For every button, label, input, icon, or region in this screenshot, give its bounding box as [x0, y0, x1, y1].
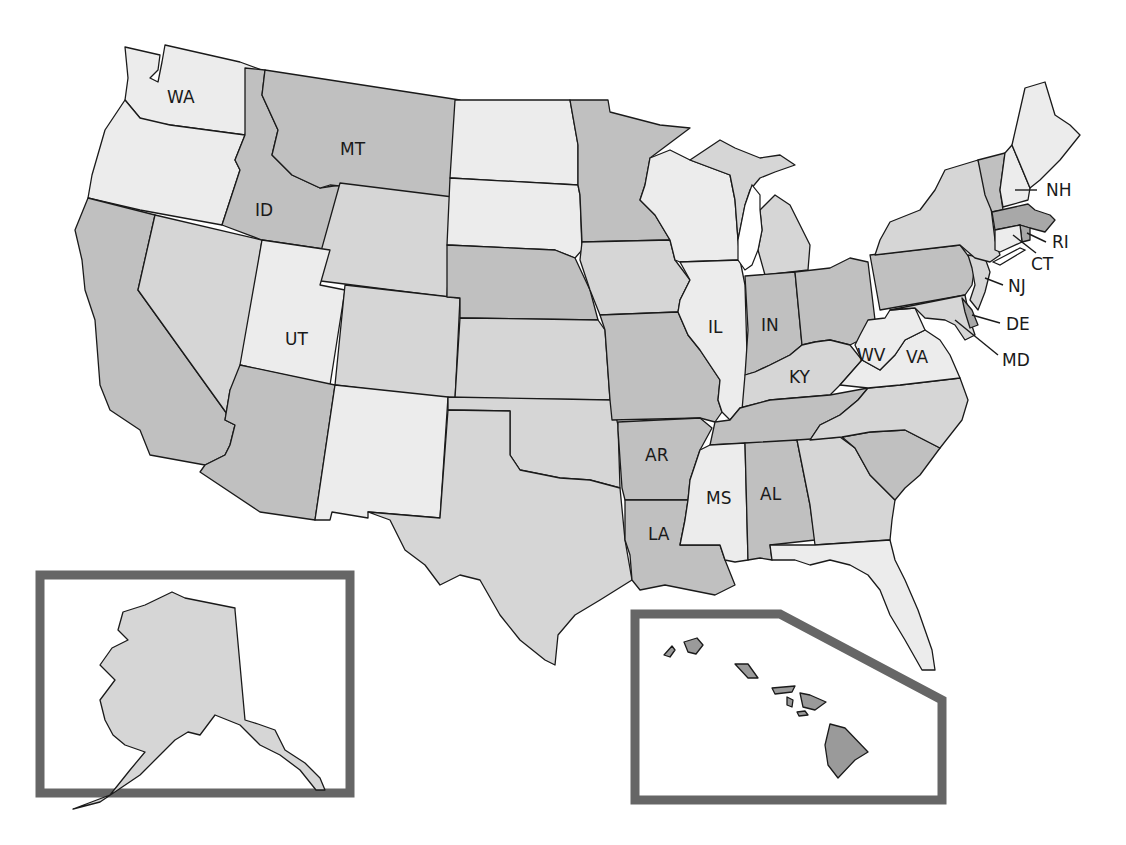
state-CO[interactable]: [335, 285, 460, 400]
label-NH: NH: [1046, 180, 1072, 200]
label-AL: AL: [760, 484, 782, 504]
hawaii-inset-frame: [635, 614, 942, 800]
us-map: WA MT ID UT IL IN KY WV VA AR MS AL LA N…: [0, 0, 1126, 845]
label-ID: ID: [255, 200, 273, 220]
label-WV: WV: [857, 345, 886, 365]
label-IL: IL: [708, 317, 723, 337]
label-MT: MT: [340, 139, 366, 159]
label-DE: DE: [1006, 314, 1030, 334]
state-MI-lower[interactable]: [758, 195, 810, 275]
state-KS[interactable]: [455, 318, 610, 400]
label-NJ: NJ: [1008, 276, 1026, 296]
label-MS: MS: [706, 488, 731, 508]
label-WA: WA: [167, 87, 195, 107]
state-ND[interactable]: [450, 100, 578, 185]
state-HI[interactable]: [664, 638, 868, 778]
label-IN: IN: [761, 315, 779, 335]
label-KY: KY: [789, 367, 811, 387]
label-VA: VA: [906, 347, 929, 367]
label-AR: AR: [645, 445, 669, 465]
state-AK[interactable]: [73, 592, 325, 809]
state-NM[interactable]: [315, 385, 448, 520]
label-LA: LA: [648, 524, 670, 544]
label-UT: UT: [285, 329, 308, 349]
label-MD: MD: [1002, 350, 1030, 370]
label-CT: CT: [1031, 254, 1054, 274]
label-RI: RI: [1052, 232, 1069, 252]
